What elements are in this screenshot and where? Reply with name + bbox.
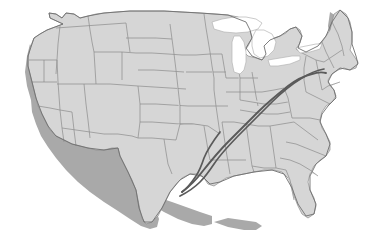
map-figure: United States map with two highlighted t… [0,0,371,240]
us-map: United States map with two highlighted t… [0,0,371,240]
land-mass [28,10,358,224]
lake-superior [212,17,262,33]
lake-michigan [232,36,246,74]
